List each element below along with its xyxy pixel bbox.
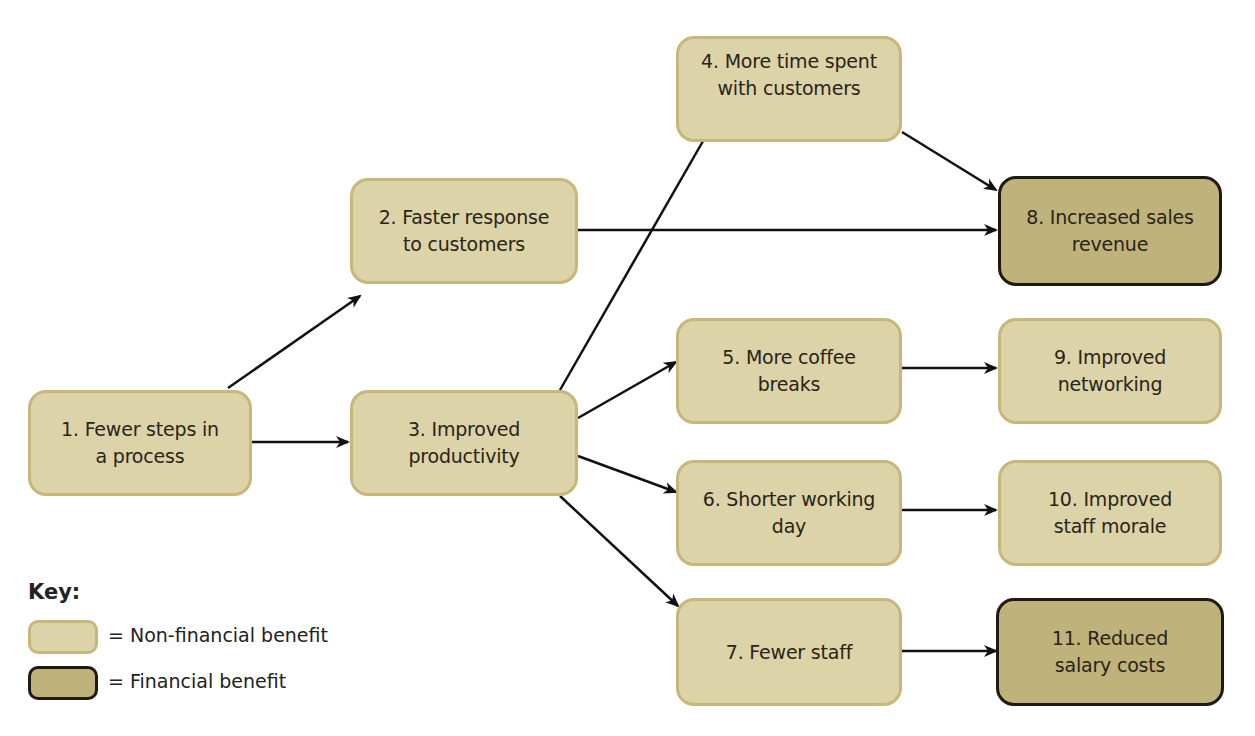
node-4-line1: 4. More time spent <box>691 48 887 75</box>
key-swatch-financial <box>28 666 98 700</box>
node-10-line1: 10. Improved <box>1038 486 1182 513</box>
node-5-line1: 5. More coffee <box>712 344 865 371</box>
node-11-reduced-salary-costs: 11. Reduced salary costs <box>996 598 1224 706</box>
node-7-line1: 7. Fewer staff <box>716 639 862 666</box>
node-7-fewer-staff: 7. Fewer staff <box>676 598 902 706</box>
node-8-line1: 8. Increased sales <box>1016 204 1203 231</box>
node-9-line2: networking <box>1044 371 1176 398</box>
node-1-line1: 1. Fewer steps in <box>51 416 229 443</box>
node-3-line1: 3. Improved <box>398 416 530 443</box>
node-2-line2: to customers <box>369 231 560 258</box>
node-3-improved-productivity: 3. Improved productivity <box>350 390 578 496</box>
node-2-line1: 2. Faster response <box>369 204 560 231</box>
key-swatch-non-financial <box>28 620 98 654</box>
node-11-line2: salary costs <box>1042 652 1178 679</box>
node-8-line2: revenue <box>1016 231 1203 258</box>
node-4-more-time-customers: 4. More time spent with customers <box>676 36 902 142</box>
node-9-line1: 9. Improved <box>1044 344 1176 371</box>
node-4-line2: with customers <box>691 75 887 102</box>
arrow-3-to-7 <box>560 496 678 606</box>
benefits-flow-diagram: 1. Fewer steps in a process 2. Faster re… <box>0 0 1255 736</box>
key-label-non-financial: = Non-financial benefit <box>108 624 328 646</box>
key-title: Key: <box>28 580 80 604</box>
node-5-coffee-breaks: 5. More coffee breaks <box>676 318 902 424</box>
key-label-financial: = Financial benefit <box>108 670 286 692</box>
node-6-shorter-working-day: 6. Shorter working day <box>676 460 902 566</box>
arrow-3-to-6 <box>578 456 676 492</box>
node-8-increased-sales-revenue: 8. Increased sales revenue <box>998 176 1222 286</box>
node-3-line2: productivity <box>398 443 530 470</box>
node-5-line2: breaks <box>712 371 865 398</box>
node-9-improved-networking: 9. Improved networking <box>998 318 1222 424</box>
node-10-improved-staff-morale: 10. Improved staff morale <box>998 460 1222 566</box>
node-1-fewer-steps: 1. Fewer steps in a process <box>28 390 252 496</box>
node-6-line1: 6. Shorter working <box>693 486 885 513</box>
arrow-3-to-5 <box>578 362 676 418</box>
node-2-faster-response: 2. Faster response to customers <box>350 178 578 284</box>
node-11-line1: 11. Reduced <box>1042 625 1178 652</box>
node-6-line2: day <box>693 513 885 540</box>
node-10-line2: staff morale <box>1038 513 1182 540</box>
arrow-1-to-2 <box>228 296 360 388</box>
arrow-4-to-8 <box>902 132 996 190</box>
node-1-line2: a process <box>51 443 229 470</box>
